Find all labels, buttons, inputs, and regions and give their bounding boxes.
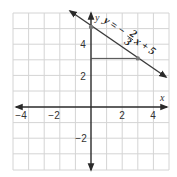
svg-text:3: 3 xyxy=(122,34,135,48)
x-tick-label: −2 xyxy=(48,110,60,121)
y-axis-label: y xyxy=(94,12,100,23)
x-tick-label: −4 xyxy=(15,110,27,121)
y-tick-label: 2 xyxy=(80,71,86,82)
line-graph: x y −4 −2 2 4 4 2 −2 y = − 2 3 x + 5 xyxy=(0,0,177,177)
point-3-3 xyxy=(136,56,140,60)
svg-text:y = −: y = − xyxy=(100,13,128,37)
point-y-intercept xyxy=(89,25,93,29)
x-tick-label: 2 xyxy=(119,110,125,121)
y-tick-label: 4 xyxy=(80,39,86,50)
x-tick-label: 4 xyxy=(150,110,156,121)
y-tick-label: −2 xyxy=(75,133,87,144)
x-axis-label: x xyxy=(159,92,165,103)
svg-text:x + 5: x + 5 xyxy=(132,34,159,58)
